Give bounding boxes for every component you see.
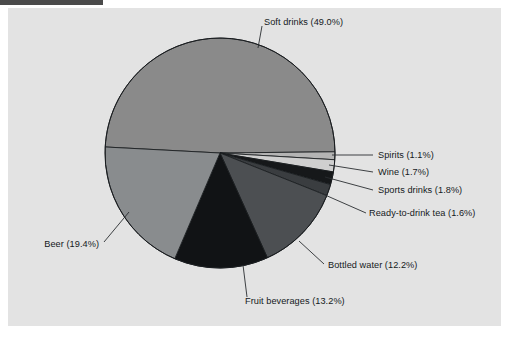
leader-line-beer [104, 212, 129, 242]
pie-label-wine: Wine (1.7%) [378, 167, 429, 177]
pie-chart: Soft drinks (49.0%) Spirits (1.1%) Wine … [0, 0, 514, 338]
leader-line-sports-drinks [325, 177, 373, 190]
leader-line-fruit-beverages [243, 265, 247, 297]
pie-label-fruit-beverages: Fruit beverages (13.2%) [245, 296, 345, 306]
pie-slice-soft-drinks[interactable] [105, 38, 335, 153]
pie-label-bottled-water: Bottled water (12.2%) [328, 260, 417, 270]
figure-root: Soft drinks (49.0%) Spirits (1.1%) Wine … [0, 0, 514, 338]
pie-label-soft-drinks: Soft drinks (49.0%) [264, 17, 343, 27]
pie-label-ready-to-drink-tea: Ready-to-drink tea (1.6%) [369, 208, 475, 218]
pie-label-beer: Beer (19.4%) [44, 239, 99, 249]
leader-line-wine [329, 165, 373, 172]
pie-label-sports-drinks: Sports drinks (1.8%) [378, 185, 462, 195]
leader-line-bottled-water [299, 241, 324, 264]
pie-label-spirits: Spirits (1.1%) [378, 150, 434, 160]
